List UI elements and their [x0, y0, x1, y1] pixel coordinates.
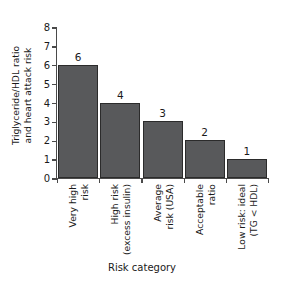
plot-area: 012345678 64321 — [57, 28, 268, 179]
x-axis-tick-label-line: (excess insulin) — [121, 184, 133, 264]
y-axis-tick-label: 8 — [44, 23, 50, 33]
x-axis-tick-label: Low risk: ideal(TG < HDL) — [236, 184, 259, 264]
x-axis-tick-label-line: Very high — [67, 184, 79, 264]
bar — [143, 121, 183, 178]
x-axis-tick-label: Averagerisk (USA) — [152, 184, 175, 264]
y-axis-title-line-1: Triglyceride/HDL ratio — [11, 45, 23, 144]
x-axis-tick-label-line: Acceptable — [194, 184, 206, 264]
y-axis-tick-label: 7 — [44, 42, 50, 52]
y-axis-tick — [52, 84, 57, 85]
x-axis-tick-label-line: ratio — [205, 184, 217, 264]
bar-value-label: 6 — [75, 52, 82, 63]
x-axis-tick-label-line: Low risk: ideal — [236, 184, 248, 264]
y-axis-tick-label: 2 — [44, 136, 50, 146]
x-axis-line — [56, 178, 268, 179]
y-axis-tick-label: 0 — [44, 174, 50, 184]
y-axis-tick — [52, 46, 57, 47]
x-axis-tick-label-line: Average — [152, 184, 164, 264]
bar-value-label: 1 — [244, 146, 251, 157]
bar-value-label: 4 — [117, 90, 124, 101]
y-axis-tick — [52, 65, 57, 66]
y-axis-tick — [52, 103, 57, 104]
y-axis-tick — [52, 27, 57, 28]
bar-chart-figure: Triglyceride/HDL ratio and heart attack … — [0, 0, 284, 289]
y-axis-tick — [52, 159, 57, 160]
x-axis-tick — [268, 178, 269, 183]
x-axis-tick — [184, 178, 185, 183]
y-axis-tick-label: 6 — [44, 61, 50, 71]
x-axis-tick-label-line: (TG < HDL) — [247, 184, 259, 264]
y-axis-tick-label: 3 — [44, 117, 50, 127]
y-axis-title-line-2: and heart attack risk — [22, 45, 34, 144]
bar — [100, 103, 140, 179]
y-axis-tick-label: 4 — [44, 99, 50, 109]
y-axis-tick-label: 5 — [44, 80, 50, 90]
y-axis-tick — [52, 122, 57, 123]
x-axis-tick-label: Acceptableratio — [194, 184, 217, 264]
y-axis-tick — [52, 141, 57, 142]
x-axis-tick-label-line: risk (USA) — [163, 184, 175, 264]
x-axis-tick — [99, 178, 100, 183]
x-axis-tick-label: Very highrisk — [67, 184, 90, 264]
x-axis-tick — [226, 178, 227, 183]
y-axis-tick-label: 1 — [44, 155, 50, 165]
x-axis-tick-label: High risk(excess insulin) — [109, 184, 132, 264]
x-axis-tick — [141, 178, 142, 183]
bar — [227, 159, 267, 178]
x-axis-tick — [57, 178, 58, 183]
x-axis-tick-label-line: risk — [79, 184, 91, 264]
bar-value-label: 3 — [159, 108, 166, 119]
bar — [185, 140, 225, 178]
x-axis-tick-label-line: High risk — [109, 184, 121, 264]
bar — [58, 65, 98, 178]
bar-value-label: 2 — [201, 127, 208, 138]
x-axis-title: Risk category — [0, 262, 284, 274]
y-axis-title: Triglyceride/HDL ratio and heart attack … — [0, 0, 44, 190]
